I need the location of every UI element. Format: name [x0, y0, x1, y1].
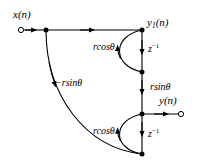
input-signal-label: x(n): [13, 9, 31, 20]
rcos-theta-bottom-text: rcosθ: [93, 125, 115, 136]
neg-rsin-theta-text: −rsinθ: [55, 77, 82, 88]
edge-bottom-rcos-arc: [118, 114, 142, 154]
delay-bottom-label: z−1: [148, 128, 159, 139]
input-signal-text: x(n): [13, 8, 31, 20]
delay-top-exponent-text: −1: [152, 42, 159, 50]
output-terminal-node: [178, 111, 183, 116]
delay-top-label: z−1: [148, 43, 159, 54]
signal-flow-diagram: x(n) y1(n) y(n) rcosθ z−1 rsinθ rcosθ z−…: [0, 0, 203, 166]
edge-top-rcos-arc: [118, 30, 142, 72]
flow-graph-canvas: [0, 0, 203, 166]
input-terminal-node: [18, 27, 23, 32]
rsin-theta-label: rsinθ: [150, 82, 170, 92]
y-signal-label: y(n): [159, 95, 177, 106]
rsin-theta-text: rsinθ: [150, 81, 170, 92]
neg-rsin-theta-label: −rsinθ: [55, 78, 82, 88]
bottom-delay-output-node: [140, 152, 145, 157]
input-branch-node: [44, 28, 49, 33]
y1-paren-text: (n): [156, 16, 169, 28]
y1-summing-node: [140, 28, 145, 33]
y1-signal-label: y1(n): [147, 17, 168, 30]
rcos-theta-bottom-label: rcosθ: [93, 126, 115, 136]
delay-bottom-exponent-text: −1: [152, 127, 159, 135]
wire-bottom-rcos-arc: [120, 114, 143, 154]
top-delay-output-node: [140, 70, 145, 75]
rcos-theta-top-label: rcosθ: [93, 42, 115, 52]
rcos-theta-top-text: rcosθ: [93, 41, 115, 52]
wire-top-rcos-arc: [120, 30, 143, 72]
y-signal-text: y(n): [159, 94, 177, 106]
y-summing-node: [140, 112, 145, 117]
